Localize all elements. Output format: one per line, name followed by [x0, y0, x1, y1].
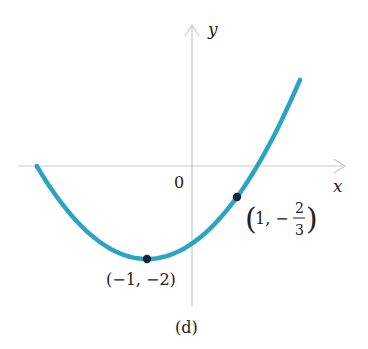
figure-caption: (d) — [175, 318, 198, 337]
right-paren: ) — [306, 201, 318, 236]
fraction-denominator: 3 — [295, 222, 304, 238]
fraction-numerator: 2 — [295, 200, 304, 216]
parabola-curve — [37, 80, 300, 259]
point-1-neg-two-thirds — [233, 193, 241, 201]
point-label-fraction: ( 1, − 2 3 ) — [245, 200, 318, 238]
x-axis-label: x — [333, 176, 343, 196]
vertex-point — [143, 255, 151, 263]
vertex-label: (−1, −2) — [106, 270, 176, 289]
parabola-figure: y x 0 (−1, −2) ( 1, − 2 3 ) (d) — [0, 0, 368, 349]
y-axis-label: y — [207, 19, 218, 39]
x-axis — [18, 159, 345, 173]
point-label-prefix: 1, − — [255, 209, 289, 228]
origin-label: 0 — [174, 173, 184, 192]
